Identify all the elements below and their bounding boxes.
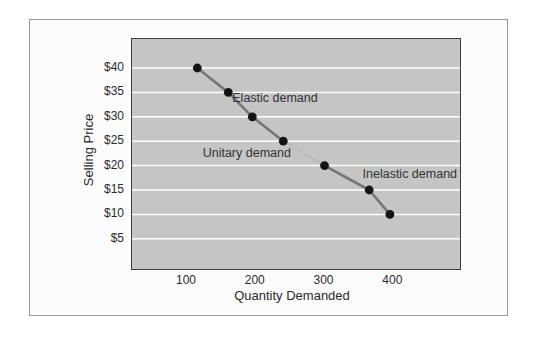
data-point (248, 112, 257, 121)
y-tick-label: $20 (80, 158, 124, 172)
x-tick-label: 100 (176, 273, 196, 287)
y-tick-label: $25 (80, 133, 124, 147)
y-tick-label: $30 (80, 109, 124, 123)
y-tick-label: $35 (80, 84, 124, 98)
plot-area: Elastic demandUnitary demandInelastic de… (131, 38, 461, 270)
annotation-label: Unitary demand (203, 146, 291, 160)
data-point (386, 210, 395, 219)
data-point (193, 64, 202, 73)
data-point (279, 137, 288, 146)
y-tick-label: $15 (80, 182, 124, 196)
figure-canvas: Selling Price Elastic demandUnitary dema… (0, 0, 536, 337)
y-axis-title: Selling Price (81, 114, 96, 186)
x-tick-label: 400 (382, 273, 402, 287)
chart-frame: Selling Price Elastic demandUnitary dema… (29, 19, 508, 316)
demand-curve-segment (252, 117, 283, 141)
data-point (365, 186, 374, 195)
data-point (320, 161, 329, 170)
demand-curve-segment (197, 68, 228, 92)
annotation-label: Inelastic demand (363, 167, 458, 181)
x-tick-label: 200 (245, 273, 265, 287)
x-axis-title: Quantity Demanded (234, 288, 350, 303)
y-tick-label: $40 (80, 60, 124, 74)
x-tick-label: 300 (314, 273, 334, 287)
demand-curve-chart: Elastic demandUnitary demandInelastic de… (132, 39, 460, 269)
annotation-label: Elastic demand (232, 91, 318, 105)
y-tick-label: $10 (80, 206, 124, 220)
y-tick-label: $5 (80, 231, 124, 245)
demand-curve-segment (369, 190, 390, 214)
